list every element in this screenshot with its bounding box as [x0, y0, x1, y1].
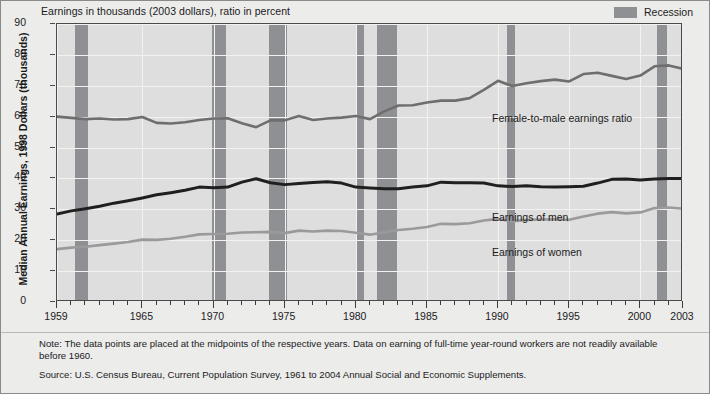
y-tick-mark: [50, 54, 55, 55]
footer-divider: [1, 332, 709, 333]
x-tick-label: 1970: [193, 310, 233, 322]
x-tick-mark: [682, 301, 683, 308]
x-tick-mark: [213, 301, 214, 308]
y-tick-label: 20: [2, 232, 26, 244]
x-tick-mark: [440, 301, 441, 305]
y-tick-mark: [50, 177, 55, 178]
x-tick-mark: [341, 301, 342, 305]
y-tick-label: 0: [2, 294, 26, 306]
source-line: Source: U.S. Census Bureau, Current Popu…: [39, 369, 685, 381]
x-tick-mark: [255, 301, 256, 305]
x-tick-mark: [625, 301, 626, 305]
y-tick-label: 30: [2, 201, 26, 213]
x-tick-mark: [497, 301, 498, 308]
x-tick-mark: [412, 301, 413, 305]
series-line: [57, 207, 682, 249]
x-tick-mark: [99, 301, 100, 305]
series-lines: [57, 24, 682, 301]
x-tick-mark: [269, 301, 270, 305]
x-tick-mark: [426, 301, 427, 308]
y-tick-label: 50: [2, 140, 26, 152]
y-tick-mark: [50, 208, 55, 209]
recession-swatch-icon: [614, 7, 637, 18]
x-tick-mark: [654, 301, 655, 305]
plot-wrapper: Female-to-male earnings ratio Earnings o…: [56, 23, 682, 301]
x-tick-mark: [597, 301, 598, 305]
y-tick-label: 80: [2, 47, 26, 59]
series-label-women: Earnings of women: [492, 246, 582, 258]
x-tick-mark: [369, 301, 370, 305]
x-tick-label: 2003: [662, 310, 702, 322]
x-tick-mark: [227, 301, 228, 305]
recession-legend: Recession: [614, 6, 693, 18]
x-tick-mark: [639, 301, 640, 308]
y-tick-mark: [50, 23, 55, 24]
y-tick-mark: [50, 301, 55, 302]
y-tick-label: 90: [2, 16, 26, 28]
x-tick-mark: [668, 301, 669, 305]
series-label-men: Earnings of men: [492, 211, 568, 223]
x-tick-mark: [526, 301, 527, 305]
x-tick-mark: [611, 301, 612, 305]
x-tick-mark: [113, 301, 114, 305]
footnotes: Note: The data points are placed at the …: [39, 338, 685, 389]
x-tick-label: 1959: [36, 310, 76, 322]
x-tick-mark: [70, 301, 71, 305]
y-tick-mark: [50, 270, 55, 271]
x-tick-mark: [511, 301, 512, 305]
x-tick-label: 1965: [121, 310, 161, 322]
x-tick-mark: [469, 301, 470, 305]
x-tick-label: 1990: [477, 310, 517, 322]
y-tick-mark: [50, 239, 55, 240]
x-tick-label: 1980: [335, 310, 375, 322]
x-tick-mark: [454, 301, 455, 305]
y-tick-mark: [50, 147, 55, 148]
note-line: Note: The data points are placed at the …: [39, 338, 685, 362]
x-tick-label: 1975: [264, 310, 304, 322]
x-tick-mark: [56, 301, 57, 308]
x-tick-mark: [156, 301, 157, 305]
figure-container: Earnings in thousands (2003 dollars), ra…: [0, 0, 710, 394]
y-tick-mark: [50, 85, 55, 86]
x-tick-mark: [184, 301, 185, 305]
recession-legend-label: Recession: [644, 6, 693, 18]
x-tick-mark: [141, 301, 142, 308]
series-label-ratio: Female-to-male earnings ratio: [492, 112, 632, 124]
x-tick-mark: [540, 301, 541, 305]
x-tick-mark: [84, 301, 85, 305]
y-tick-mark: [50, 116, 55, 117]
x-tick-mark: [127, 301, 128, 305]
x-tick-mark: [355, 301, 356, 308]
x-tick-mark: [284, 301, 285, 308]
x-tick-mark: [383, 301, 384, 305]
x-tick-mark: [397, 301, 398, 305]
x-tick-mark: [170, 301, 171, 305]
x-tick-mark: [298, 301, 299, 305]
x-tick-label: 1995: [548, 310, 588, 322]
x-tick-mark: [312, 301, 313, 305]
y-tick-label: 10: [2, 263, 26, 275]
x-tick-mark: [554, 301, 555, 305]
units-caption: Earnings in thousands (2003 dollars), ra…: [41, 5, 290, 17]
x-tick-label: 2000: [619, 310, 659, 322]
x-tick-mark: [483, 301, 484, 305]
y-tick-label: 70: [2, 78, 26, 90]
x-tick-mark: [326, 301, 327, 305]
plot-area: Female-to-male earnings ratio Earnings o…: [56, 23, 682, 301]
x-tick-mark: [241, 301, 242, 305]
y-tick-label: 40: [2, 170, 26, 182]
x-tick-mark: [198, 301, 199, 305]
x-tick-mark: [582, 301, 583, 305]
x-tick-label: 1985: [406, 310, 446, 322]
y-tick-label: 60: [2, 109, 26, 121]
series-line: [57, 178, 682, 214]
x-tick-mark: [568, 301, 569, 308]
